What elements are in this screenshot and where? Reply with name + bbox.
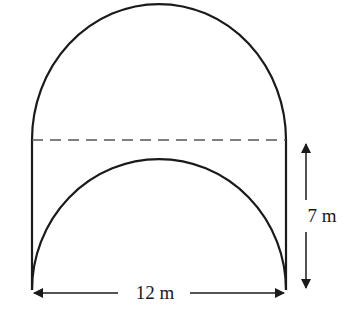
figure: 12 m 7 m (0, 0, 346, 325)
height-label: 7 m (307, 205, 336, 226)
outer-semicircle (32, 4, 286, 140)
inner-semicircle (32, 159, 286, 290)
width-label: 12 m (136, 282, 175, 303)
